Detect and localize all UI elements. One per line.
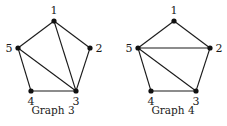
edge-2-3 [76, 48, 90, 91]
graph-caption: Graph 4 [151, 104, 194, 116]
node-5 [135, 45, 140, 50]
edge-5-3 [18, 48, 76, 91]
node-label-2: 2 [216, 42, 223, 55]
edge-1-5 [138, 21, 174, 48]
edge-2-3 [196, 48, 210, 91]
edge-1-2 [54, 21, 90, 48]
edge-4-5 [18, 48, 31, 91]
node-3 [193, 88, 198, 93]
node-2 [87, 45, 92, 50]
node-label-1: 1 [171, 4, 178, 17]
node-5 [15, 45, 20, 50]
node-1 [171, 18, 176, 23]
graph-caption: Graph 3 [31, 104, 74, 116]
node-label-2: 2 [96, 42, 103, 55]
graph-4: 12345Graph 4 [126, 4, 223, 116]
edge-1-3 [54, 21, 76, 91]
node-1 [51, 18, 56, 23]
edge-1-5 [18, 21, 54, 48]
node-4 [28, 88, 33, 93]
graphs-figure: 12345Graph 312345Graph 4 [0, 0, 227, 126]
node-label-5: 5 [6, 42, 13, 55]
edge-4-5 [138, 48, 151, 91]
edge-5-3 [138, 48, 196, 91]
node-label-1: 1 [51, 4, 58, 17]
node-2 [207, 45, 212, 50]
node-4 [148, 88, 153, 93]
graph-3: 12345Graph 3 [6, 4, 103, 116]
edge-1-2 [174, 21, 210, 48]
node-3 [73, 88, 78, 93]
node-label-5: 5 [126, 42, 133, 55]
